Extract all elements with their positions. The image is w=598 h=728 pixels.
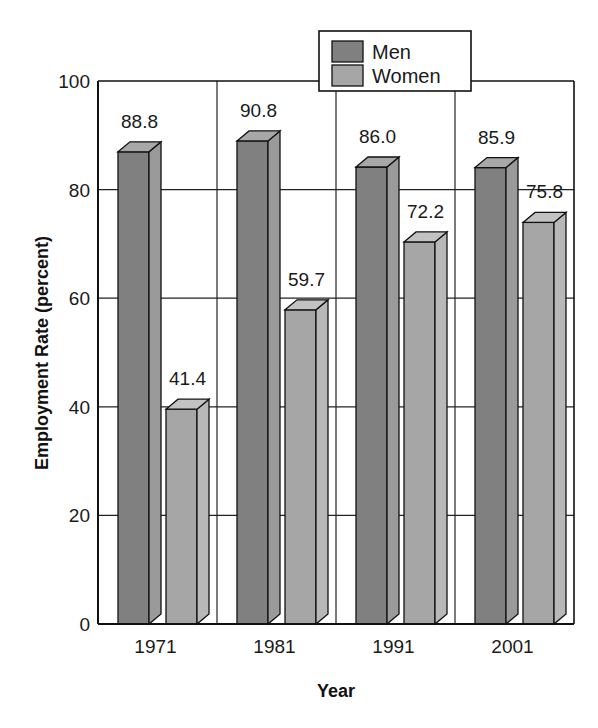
x-axis-ticks: 1971198119912001 (134, 636, 533, 657)
bar-women-1981 (285, 300, 328, 624)
y-tick-label: 40 (69, 397, 90, 418)
bar-men-1971 (118, 142, 161, 624)
y-tick-label: 100 (58, 71, 90, 92)
bar-men-1991 (356, 157, 399, 624)
x-axis-title: Year (317, 681, 355, 701)
value-label: 41.4 (169, 368, 206, 389)
value-label: 75.8 (526, 181, 563, 202)
x-tick-label: 1991 (372, 636, 414, 657)
x-tick-label: 1971 (134, 636, 176, 657)
legend-swatch-women (332, 65, 363, 86)
y-tick-label: 0 (79, 614, 90, 635)
legend-label-women: Women (372, 65, 441, 87)
legend-swatch-men (332, 41, 363, 62)
y-axis-ticks: 020406080100 (58, 71, 90, 635)
x-tick-label: 2001 (491, 636, 533, 657)
bar-women-2001 (523, 212, 566, 624)
y-tick-label: 20 (69, 505, 90, 526)
value-label: 90.8 (240, 100, 277, 121)
value-label: 85.9 (478, 127, 515, 148)
employment-rate-chart: 020406080100 1971198119912001 88.841.490… (0, 0, 598, 728)
y-axis-title: Employment Rate (percent) (32, 236, 52, 470)
value-label: 59.7 (288, 269, 325, 290)
bar-women-1971 (166, 399, 209, 624)
y-tick-label: 60 (69, 288, 90, 309)
x-tick-label: 1981 (253, 636, 295, 657)
bar-men-2001 (475, 158, 518, 624)
y-tick-label: 80 (69, 180, 90, 201)
bar-women-1991 (404, 232, 447, 624)
legend: MenWomen (319, 31, 471, 91)
value-label: 88.8 (121, 111, 158, 132)
value-label: 86.0 (359, 126, 396, 147)
bar-men-1981 (237, 131, 280, 624)
value-label: 72.2 (407, 201, 444, 222)
legend-label-men: Men (372, 41, 411, 63)
